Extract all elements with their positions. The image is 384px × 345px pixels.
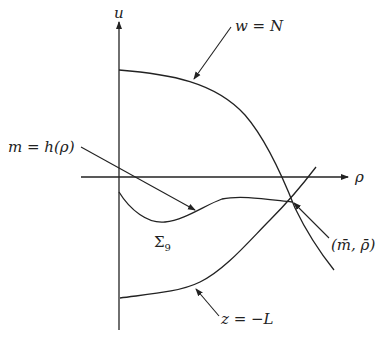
region-label: Σ9	[154, 235, 171, 253]
diagram-svg	[0, 0, 384, 345]
point-label-arrow	[294, 203, 329, 238]
rho-axis-label: ρ	[355, 170, 364, 185]
w-curve-label: w = N	[235, 19, 283, 34]
m-equals-h-rho-curve	[119, 192, 292, 222]
z-curve-label: z = −L	[221, 312, 274, 327]
m-label-arrow	[81, 147, 195, 210]
u-axis-label: u	[114, 6, 124, 21]
m-curve-label: m = h(ρ)	[8, 140, 75, 155]
region-sigma: Σ	[154, 233, 165, 251]
point-label: (m̄, ρ̄)	[331, 238, 375, 253]
z-label-arrow	[196, 289, 219, 316]
w-equals-n-curve	[119, 70, 334, 270]
region-subscript: 9	[165, 242, 171, 253]
diagram-canvas: u ρ w = N m = h(ρ) Σ9 z = −L (m̄, ρ̄)	[0, 0, 384, 345]
w-label-arrow	[194, 27, 231, 79]
